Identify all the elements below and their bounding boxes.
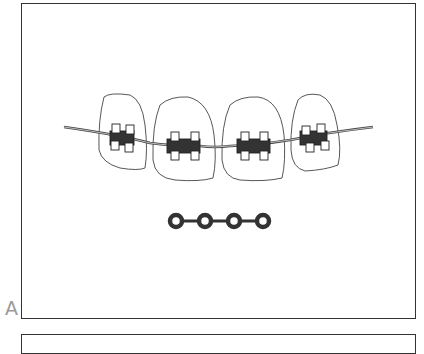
power-chain — [170, 215, 269, 227]
